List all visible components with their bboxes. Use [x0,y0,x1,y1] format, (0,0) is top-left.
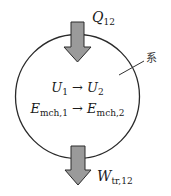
mechanical-energy-equation: Emch,1 → Emch,2 [0,101,155,118]
emch2-sub: mch,2 [97,108,125,118]
heat-symbol: Q [92,9,103,25]
emch1-sub: mch,1 [40,108,68,118]
u1-symbol: U [51,80,62,95]
u1-sub: 1 [62,87,68,97]
work-label: Wtr,12 [97,168,133,186]
u2-symbol: U [87,80,98,95]
emch1-symbol: E [30,101,40,116]
system-label: 系 [146,49,157,65]
internal-energy-equation: U1 → U2 [0,80,155,97]
work-out-arrow-icon [65,146,91,185]
heat-subscript: 12 [103,17,114,27]
work-symbol: W [97,168,111,184]
u2-sub: 2 [98,87,104,97]
system-leader-line [119,61,144,75]
heat-label: Q12 [92,9,115,27]
transition-arrow: → [72,80,83,95]
diagram-canvas [0,0,171,196]
emch2-symbol: E [87,101,97,116]
transition-arrow: → [72,101,83,116]
work-subscript: tr,12 [111,176,132,186]
heat-in-arrow-icon [64,22,91,62]
